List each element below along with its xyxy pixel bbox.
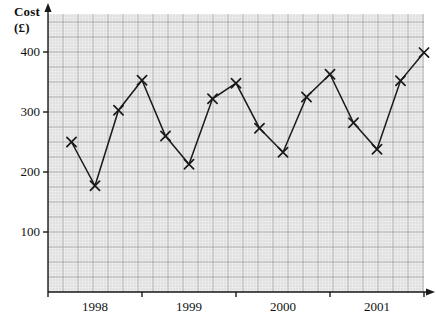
y-tick-label: 300 [6,104,40,120]
plot-grid-area [48,14,424,292]
y-tick-label: 100 [6,224,40,240]
y-tick-label: 400 [6,44,40,60]
x-tick-label-year: 1998 [71,299,119,315]
x-tick-label-year: 1999 [165,299,213,315]
y-axis-title-cost: Cost [14,4,40,19]
x-axis-arrow [426,288,435,295]
x-tick-label-year: 2001 [353,299,401,315]
y-axis-arrow [44,3,51,12]
y-tick-label: 200 [6,164,40,180]
x-tick-label-year: 2000 [259,299,307,315]
graph-figure: Cost (£) 4003002001001998199920002001 [0,0,436,321]
y-axis-title-unit: (£) [14,20,30,35]
